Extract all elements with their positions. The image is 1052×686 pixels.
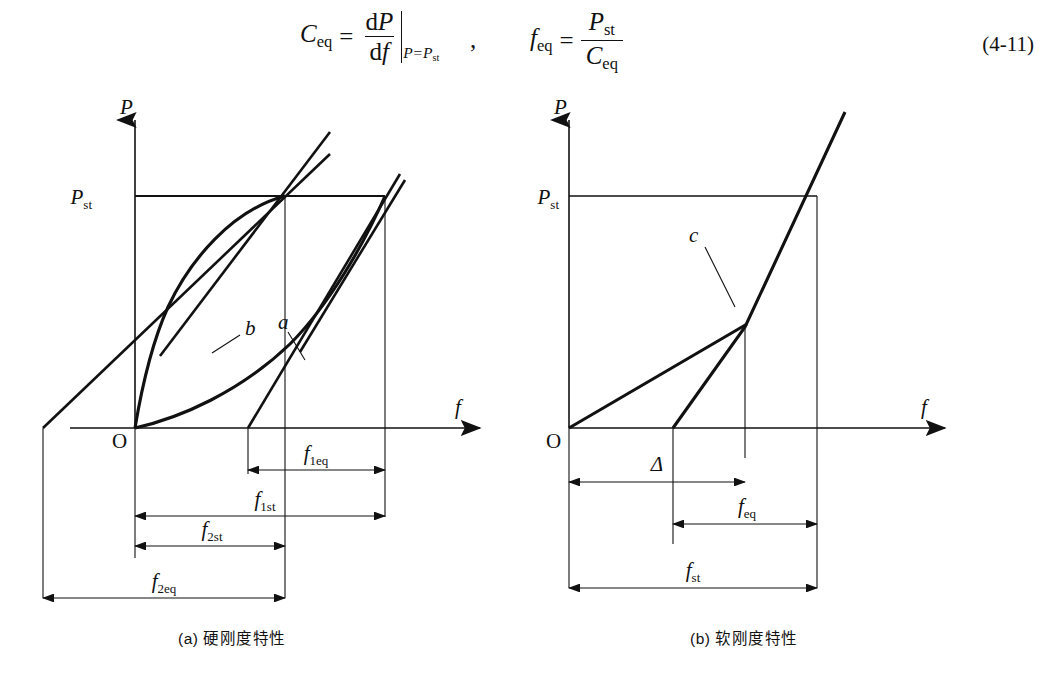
figure-b-leader-c xyxy=(705,247,735,307)
figure-a-dim-label-f2st: f2st xyxy=(201,517,222,544)
figure-a-leader-b xyxy=(212,335,240,353)
evaluation-bar xyxy=(401,11,402,63)
equation-comma: , xyxy=(470,26,476,54)
figure-b-caption: (b) 软刚度特性 xyxy=(690,626,798,648)
figure-a-caption: (a) 硬刚度特性 xyxy=(178,626,286,648)
figure-b-secant xyxy=(569,324,747,428)
figure-a-y-axis-label: P xyxy=(119,95,133,119)
equation-derivative-denominator: df xyxy=(365,36,394,65)
figure-b-svg: P f O Pst c Δ feq fst xyxy=(525,92,1045,637)
equation-equals-1: = xyxy=(339,23,353,51)
figure-a-svg: P f O Pst b a f1eq xyxy=(0,92,520,637)
figure-a-curve-label-b: b xyxy=(245,316,256,340)
figure-a-dim-label-f1st: f1st xyxy=(254,487,275,514)
figure-a-curve-label-a: a xyxy=(278,310,289,334)
figure-b-origin-label: O xyxy=(546,429,561,453)
equation-ceq-symbol: Ceq xyxy=(300,20,332,52)
figure-b-curve-c xyxy=(673,112,845,428)
figure-b-dim-label-delta: Δ xyxy=(650,452,663,476)
equation-row: Ceq = dP df P=Pst , feq = Pst Ceq (4-11) xyxy=(0,6,1052,90)
figures-container: P f O Pst b a f1eq xyxy=(0,92,1052,637)
figure-b-x-axis-label: f xyxy=(921,395,930,419)
equation-feq-symbol: feq xyxy=(530,24,553,56)
equation-pst-numerator: Pst xyxy=(584,8,620,40)
figure-a-x-axis-label: f xyxy=(455,395,464,419)
figure-b-curve-label-c: c xyxy=(689,223,699,247)
figure-b-dim-label-fst: fst xyxy=(686,558,701,585)
equation-pst-over-ceq: Pst Ceq xyxy=(581,8,623,73)
equation-feq: feq = Pst Ceq xyxy=(530,8,623,73)
figure-a-curve-b xyxy=(135,196,285,428)
figure-a-dim-label-f1eq: f1eq xyxy=(304,441,329,468)
equation-number: (4-11) xyxy=(982,32,1034,57)
equation-derivative-fraction: dP df xyxy=(360,8,398,65)
figure-b-pst-label: Pst xyxy=(537,185,560,212)
figure-b-dim-label-feq: feq xyxy=(738,494,757,521)
equation-ceq-denominator: Ceq xyxy=(581,40,623,73)
equation-ceq: Ceq = dP df P=Pst xyxy=(300,8,439,65)
figure-a-dim-label-f2eq: f2eq xyxy=(152,569,177,596)
figure-a-curve-a xyxy=(135,196,385,428)
equation-equals-2: = xyxy=(560,27,574,55)
evaluation-condition: P=Pst xyxy=(403,44,439,65)
figure-a-origin-label: O xyxy=(112,429,127,453)
figure-a-pst-label: Pst xyxy=(70,185,93,212)
equation-derivative-numerator: dP xyxy=(360,8,398,36)
figure-a-tangent-a xyxy=(300,180,405,352)
figure-b-y-axis-label: P xyxy=(553,95,567,119)
